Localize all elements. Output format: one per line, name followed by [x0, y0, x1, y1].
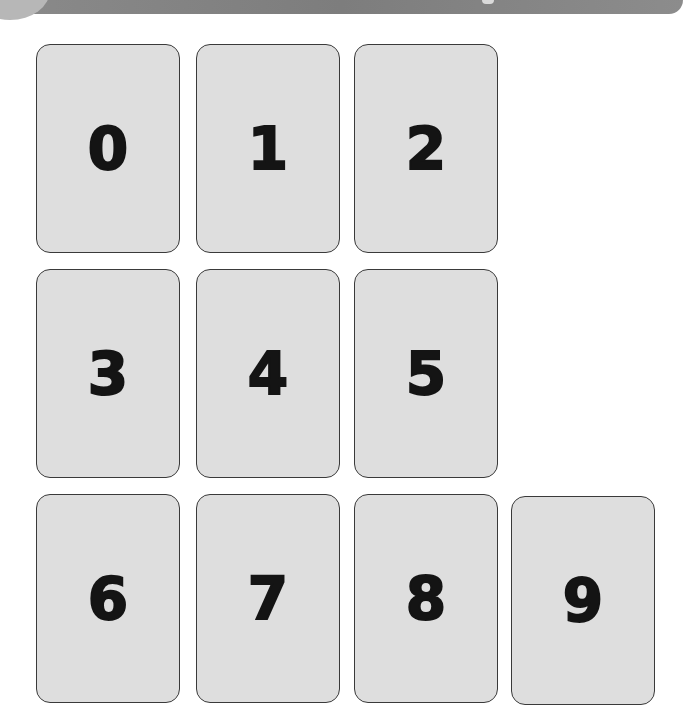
number-card-7[interactable]: 7 — [196, 494, 340, 703]
card-digit: 7 — [248, 565, 288, 633]
card-digit: 4 — [248, 340, 288, 408]
card-digit: 1 — [248, 115, 288, 183]
number-card-6[interactable]: 6 — [36, 494, 180, 703]
card-digit: 0 — [88, 115, 128, 183]
number-card-4[interactable]: 4 — [196, 269, 340, 478]
card-digit: 8 — [406, 565, 446, 633]
card-digit: 9 — [563, 567, 603, 635]
number-card-5[interactable]: 5 — [354, 269, 498, 478]
number-card-9[interactable]: 9 — [511, 496, 655, 705]
number-card-0[interactable]: 0 — [36, 44, 180, 253]
number-card-1[interactable]: 1 — [196, 44, 340, 253]
number-card-8[interactable]: 8 — [354, 494, 498, 703]
card-digit: 3 — [88, 340, 128, 408]
card-digit: 6 — [88, 565, 128, 633]
header-banner — [0, 0, 683, 14]
card-digit: 5 — [406, 340, 446, 408]
number-card-3[interactable]: 3 — [36, 269, 180, 478]
card-digit: 2 — [406, 115, 446, 183]
number-card-2[interactable]: 2 — [354, 44, 498, 253]
